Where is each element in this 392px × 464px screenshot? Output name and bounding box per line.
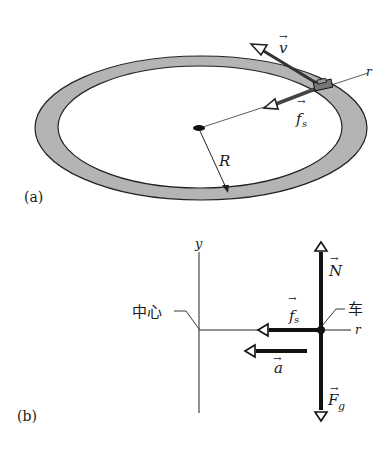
panel-b: y r 中心 车 → N → F g → f s → a	[17, 236, 363, 424]
friction-arrow-symbol: →	[297, 96, 306, 107]
acceleration-arrowhead	[245, 345, 255, 357]
friction-arrow	[276, 89, 315, 104]
y-axis-label: y	[194, 236, 203, 251]
center-point	[193, 125, 205, 131]
diagram-canvas: v → f s → r R (a) y r 中心 车	[0, 0, 392, 464]
radius-label: R	[218, 152, 230, 170]
panel-a-label: (a)	[24, 189, 43, 205]
friction-force-arrowhead	[258, 324, 268, 336]
center-leader-line	[174, 311, 199, 329]
gravity-arrowhead	[315, 412, 327, 421]
friction-arrowhead	[264, 99, 278, 109]
car-point	[317, 326, 325, 334]
acceleration-label: a	[274, 359, 283, 377]
gravity-subscript: g	[338, 400, 345, 413]
car-label: 车	[348, 300, 363, 318]
friction-b-subscript: s	[294, 314, 299, 325]
friction-subscript: s	[302, 118, 307, 129]
r-axis-label-b: r	[355, 323, 362, 337]
center-label: 中心	[132, 303, 162, 321]
normal-force-arrowhead	[315, 242, 327, 251]
panel-b-label: (b)	[17, 408, 37, 424]
velocity-arrow-symbol: →	[279, 31, 288, 42]
normal-label: N	[328, 262, 343, 280]
panel-a: v → f s → r R (a)	[24, 31, 373, 205]
r-axis-label: r	[366, 65, 373, 79]
friction-b-arrow-symbol: →	[288, 293, 297, 304]
car-leader-line	[322, 309, 345, 326]
